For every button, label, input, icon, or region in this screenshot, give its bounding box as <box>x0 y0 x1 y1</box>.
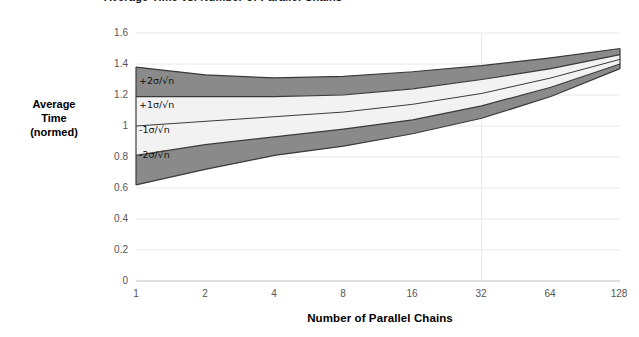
band-label-minus-2-sigma-text: -2σ/√n <box>139 149 170 160</box>
band-label-minus-1-sigma-text: -1σ/√n <box>139 124 170 135</box>
band-label-plus-2-sigma: +2σ/√n <box>139 76 174 86</box>
plot-area <box>0 0 639 337</box>
band-label-plus-1-sigma: +1σ/√n <box>139 100 174 110</box>
band-label-plus-1-sigma-text: +1σ/√n <box>139 99 174 110</box>
band-label-minus-2-sigma: -2σ/√n <box>139 150 170 160</box>
chart-container: Average Time vs. Number of Parallel Chai… <box>0 0 639 337</box>
band-label-minus-1-sigma: -1σ/√n <box>139 125 170 135</box>
band-label-plus-2-sigma-text: +2σ/√n <box>139 75 174 86</box>
